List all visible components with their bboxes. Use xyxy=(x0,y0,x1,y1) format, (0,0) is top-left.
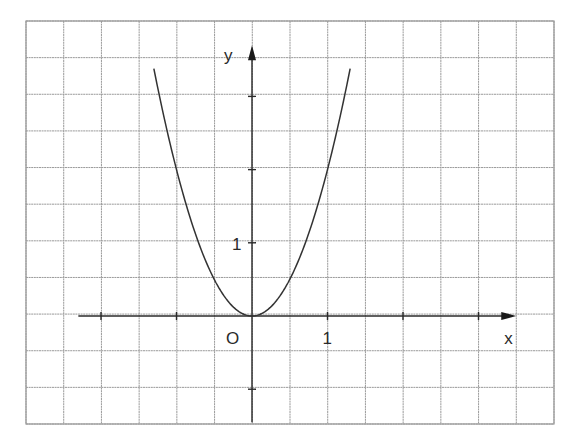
parabola-chart: x y O 1 1 xyxy=(0,0,565,441)
y-tick-label-1: 1 xyxy=(232,235,241,254)
grid xyxy=(26,21,554,424)
x-tick-label-1: 1 xyxy=(323,329,332,348)
y-axis-arrow-icon xyxy=(248,45,256,60)
axes xyxy=(78,45,516,422)
origin-label: O xyxy=(226,329,239,348)
x-axis-arrow-icon xyxy=(501,312,516,320)
x-axis-label: x xyxy=(504,329,513,348)
y-axis-label: y xyxy=(224,46,233,65)
